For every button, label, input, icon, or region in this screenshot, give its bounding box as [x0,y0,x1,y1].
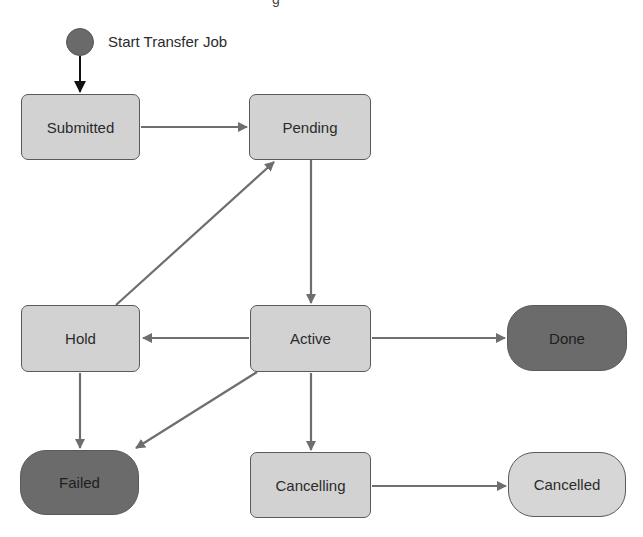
state-label: Pending [282,119,337,136]
state-active: Active [250,305,371,372]
state-label: Done [549,330,585,347]
start-label: Start Transfer Job [108,33,227,50]
state-failed: Failed [20,450,139,515]
state-cancelled: Cancelled [508,452,626,517]
state-cancelling: Cancelling [250,452,371,518]
state-hold: Hold [21,305,140,372]
state-submitted: Submitted [21,94,140,160]
edge-hold-pending [116,162,274,305]
state-done: Done [507,305,627,371]
state-label: Cancelled [534,476,601,493]
state-label: Hold [65,330,96,347]
start-node-icon [66,28,94,56]
state-label: Submitted [47,119,115,136]
state-label: Active [290,330,331,347]
state-label: Failed [59,474,100,491]
state-label: Cancelling [275,477,345,494]
state-pending: Pending [249,94,371,160]
edge-active-failed [136,372,257,448]
